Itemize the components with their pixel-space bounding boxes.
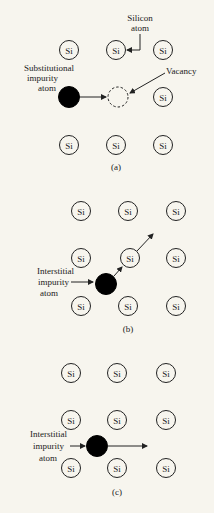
interstitial-impurity-atom — [96, 274, 117, 295]
si-label: Si — [113, 416, 121, 426]
vacancy-site — [108, 87, 128, 107]
si-label: Si — [162, 464, 170, 474]
substitutional-impurity-atom — [59, 87, 80, 108]
silicon-displacement-arrow — [137, 234, 153, 251]
vacancy-pointer-arrow — [130, 73, 165, 93]
si-label: Si — [162, 369, 170, 379]
si-label: Si — [159, 141, 167, 151]
si-label: Si — [172, 254, 180, 264]
silicon-atom-label: Silicon — [127, 13, 153, 23]
si-label: Si — [77, 254, 85, 264]
si-label: Si — [159, 46, 167, 56]
interstitial-impurity-atom — [87, 436, 108, 457]
substitutional-impurity-label: impurity — [27, 73, 58, 83]
si-label: Si — [112, 141, 120, 151]
substitutional-impurity-label: atom — [38, 83, 56, 93]
interstitial-impurity-label: Interstitial — [30, 429, 67, 439]
substitutional-impurity-label: Substitutional — [24, 63, 75, 73]
panel-b-caption: (b) — [123, 324, 134, 334]
silicon-atom-pointer-arrow — [127, 34, 140, 50]
si-label: Si — [172, 302, 180, 312]
diagram-canvas: Si Si Si Si Si Si Si Silicon atom Vacanc… — [0, 0, 214, 513]
vacancy-label: Vacancy — [166, 66, 197, 76]
si-label: Si — [112, 46, 120, 56]
si-label: Si — [124, 302, 132, 312]
si-label: Si — [172, 207, 180, 217]
panel-c-caption: (c) — [112, 487, 122, 497]
interstitial-impurity-label: atom — [39, 453, 57, 463]
interstitial-impurity-label: impurity — [33, 441, 64, 451]
si-label: Si — [67, 416, 75, 426]
si-label: Si — [67, 369, 75, 379]
si-label: Si — [159, 93, 167, 103]
si-label: Si — [65, 46, 73, 56]
si-label: Si — [126, 254, 134, 264]
silicon-atom-label: atom — [131, 23, 149, 33]
si-label: Si — [162, 416, 170, 426]
si-label: Si — [77, 207, 85, 217]
si-label: Si — [113, 369, 121, 379]
si-label: Si — [113, 464, 121, 474]
si-label: Si — [67, 464, 75, 474]
si-label: Si — [65, 141, 73, 151]
panel-b-text: Si Si Si Si Si Si Si Si Si Interstitial … — [37, 207, 180, 335]
panel-a-caption: (a) — [111, 162, 121, 172]
panel-c-text: Si Si Si Si Si Si Si Si Si Interstitial … — [30, 369, 170, 498]
si-label: Si — [124, 207, 132, 217]
interstitial-impurity-label: Interstitial — [37, 266, 74, 276]
impurity-push-arrow — [114, 267, 122, 276]
interstitial-impurity-label: atom — [40, 288, 58, 298]
si-label: Si — [77, 302, 85, 312]
impurity-diffusion-figure: Si Si Si Si Si Si Si Silicon atom Vacanc… — [0, 0, 214, 513]
interstitial-impurity-label: impurity — [38, 277, 69, 287]
